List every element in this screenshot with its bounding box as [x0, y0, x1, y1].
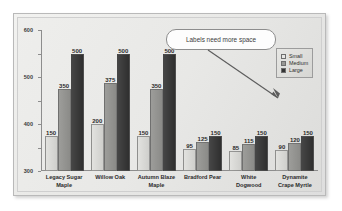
bar-value-label: 150 [211, 130, 221, 136]
chart-frame: 0100200300400500600 15035050020037550015… [13, 13, 326, 196]
legend-swatch-icon [281, 61, 286, 66]
category-label-line: White [226, 174, 272, 182]
category-label-line: Crape Myrtle [272, 182, 318, 190]
x-axis-category-label: WhiteDogwood [226, 174, 272, 189]
bar-group: 95125150 [180, 30, 226, 171]
bar[interactable]: 150 [255, 136, 268, 171]
x-axis-category-label: Bradford Pear [180, 174, 226, 182]
bar[interactable]: 500 [163, 54, 176, 172]
bar-value-label: 150 [138, 130, 148, 136]
bar[interactable]: 150 [137, 136, 150, 171]
bar-value-label: 350 [59, 83, 69, 89]
callout-bubble: Labels need more space [166, 29, 276, 50]
y-axis-tick-label: 400 [24, 121, 33, 127]
legend-item-small[interactable]: Small [281, 53, 308, 59]
category-label-line: Dynamite [272, 174, 318, 182]
legend-item-label: Medium [289, 60, 308, 66]
category-label-line: Maple [133, 182, 179, 190]
legend-item-large[interactable]: Large [281, 67, 308, 73]
bar[interactable]: 200 [91, 124, 104, 171]
bar-group: 85115150 [226, 30, 272, 171]
bar-group: 150350500 [41, 30, 87, 171]
bar-value-label: 150 [46, 130, 56, 136]
bar[interactable]: 120 [288, 143, 301, 171]
y-axis-tick: 0 [38, 171, 41, 172]
bar-value-label: 150 [257, 130, 267, 136]
legend-item-label: Small [289, 53, 302, 59]
x-axis-category-label: DynamiteCrape Myrtle [272, 174, 318, 189]
bar[interactable]: 90 [275, 150, 288, 171]
bar-value-label: 200 [92, 118, 102, 124]
y-axis-tick-label: 600 [24, 27, 33, 33]
bar[interactable]: 500 [71, 54, 84, 172]
legend-item-medium[interactable]: Medium [281, 60, 308, 66]
bar[interactable]: 115 [242, 144, 255, 171]
y-axis-tick-label: 500 [24, 74, 33, 80]
x-axis-category-label: Legacy SugarMaple [41, 174, 87, 189]
bar-value-label: 90 [279, 144, 286, 150]
bar[interactable]: 85 [229, 151, 242, 171]
legend-item-label: Large [289, 67, 303, 73]
bar[interactable]: 350 [58, 89, 71, 171]
bar[interactable]: 150 [209, 136, 222, 171]
bar[interactable]: 95 [183, 149, 196, 171]
x-axis-category-labels: Legacy SugarMapleWillow OakAutumn BlazeM… [41, 174, 318, 198]
bar-value-label: 120 [290, 137, 300, 143]
bar[interactable]: 375 [104, 83, 117, 171]
y-axis-tick-label: 300 [24, 168, 33, 174]
category-label-line: Autumn Blaze [133, 174, 179, 182]
category-label-line: Willow Oak [87, 174, 133, 182]
bar-value-label: 350 [151, 83, 161, 89]
bar[interactable]: 125 [196, 142, 209, 171]
chart-legend: SmallMediumLarge [276, 48, 313, 78]
legend-swatch-icon [281, 68, 286, 73]
bar[interactable]: 500 [117, 54, 130, 172]
bar-group: 200375500 [87, 30, 133, 171]
bar-group: 150350500 [133, 30, 179, 171]
bar[interactable]: 350 [150, 89, 163, 171]
category-label-line: Legacy Sugar [41, 174, 87, 182]
bar-value-label: 150 [303, 130, 313, 136]
callout-text: Labels need more space [186, 36, 256, 43]
chart-plot-surface: 0100200300400500600 15035050020037550015… [17, 17, 322, 192]
category-label-line: Maple [41, 182, 87, 190]
x-axis-category-label: Autumn BlazeMaple [133, 174, 179, 189]
legend-swatch-icon [281, 54, 286, 59]
bar-value-label: 85 [232, 145, 239, 151]
bar-value-label: 115 [244, 138, 254, 144]
bar-value-label: 125 [198, 136, 208, 142]
x-axis-category-label: Willow Oak [87, 174, 133, 182]
bar-value-label: 95 [186, 143, 193, 149]
bar[interactable]: 150 [301, 136, 314, 171]
category-label-line: Bradford Pear [180, 174, 226, 182]
bar[interactable]: 150 [45, 136, 58, 171]
bar-value-label: 500 [72, 48, 82, 54]
category-label-line: Dogwood [226, 182, 272, 190]
bar-value-label: 500 [118, 48, 128, 54]
bar-value-label: 375 [105, 77, 115, 83]
